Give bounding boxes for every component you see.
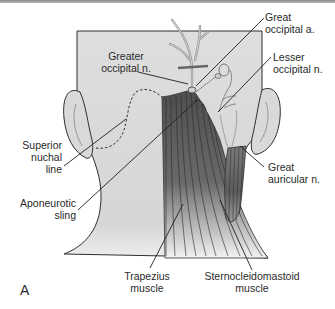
label-line: Sternocleidomastoid	[200, 270, 304, 282]
label-aponeurotic-sling: Aponeurotic sling	[8, 197, 76, 221]
label-line: auricular n.	[268, 173, 320, 185]
label-trapezius-muscle: Trapezius muscle	[112, 270, 182, 294]
label-great-occipital-artery: Great occipital a.	[265, 11, 315, 35]
label-line: occipital a.	[265, 23, 315, 35]
label-line: Great	[265, 11, 315, 23]
label-line: Superior	[14, 139, 62, 151]
label-line: Great	[268, 161, 320, 173]
label-line: sling	[8, 209, 76, 221]
label-sternocleidomastoid-muscle: Sternocleidomastoid muscle	[200, 270, 304, 294]
label-greater-occipital-nerve: Greater occipital n.	[91, 50, 161, 74]
label-line: Trapezius	[112, 270, 182, 282]
label-great-auricular-nerve: Great auricular n.	[268, 161, 320, 185]
label-line: muscle	[112, 282, 182, 294]
label-lesser-occipital-nerve: Lesser occipital n.	[273, 51, 323, 75]
label-line: nuchal	[14, 151, 62, 163]
label-line: muscle	[200, 282, 304, 294]
label-line: occipital n.	[91, 62, 161, 74]
panel-letter: A	[20, 282, 29, 298]
label-line: occipital n.	[273, 63, 323, 75]
label-superior-nuchal-line: Superior nuchal line	[14, 139, 62, 175]
label-line: Greater	[91, 50, 161, 62]
label-line: line	[14, 163, 62, 175]
label-line: Lesser	[273, 51, 323, 63]
label-line: Aponeurotic	[8, 197, 76, 209]
nerve-emergence	[188, 87, 196, 93]
